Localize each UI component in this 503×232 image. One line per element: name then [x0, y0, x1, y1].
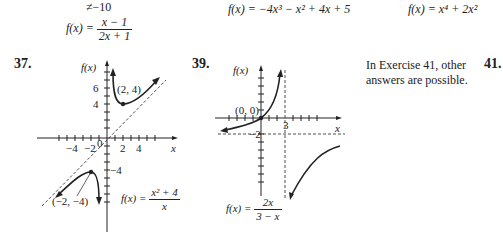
exercise-41-number: 41.	[484, 56, 502, 72]
graph-39-func-num: 2x	[254, 196, 281, 210]
note-line-1: In Exercise 41, other	[366, 58, 466, 73]
graph-39-func-lhs: f(x) =	[226, 202, 251, 214]
graph-39-function: f(x) = 2x 3 − x	[226, 196, 282, 223]
graph-39-func-den: 3 − x	[254, 210, 281, 223]
note-line-2: answers are possible.	[366, 73, 468, 88]
graph-39-point-label: (0, 0)	[235, 104, 259, 116]
graph-39-tick-3: 3	[283, 119, 289, 131]
graph-39-y-label: f(x)	[233, 64, 248, 76]
graph-39-tick-2: −2	[249, 128, 261, 140]
graph-39-func-fraction: 2x 3 − x	[254, 196, 281, 223]
graph-39-x-label: x	[335, 122, 340, 134]
